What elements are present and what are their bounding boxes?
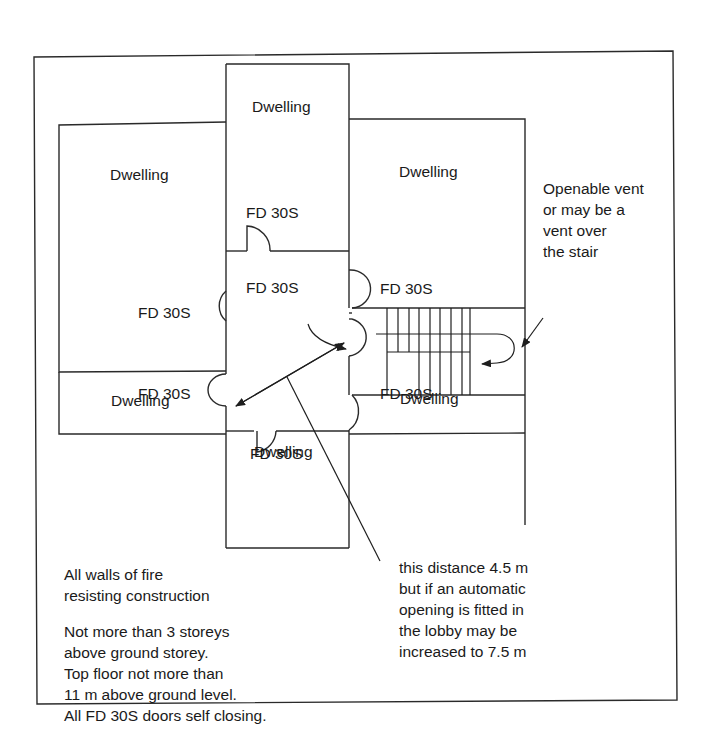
door-label-lobby: FD 30S: [246, 279, 299, 296]
walls-note: All walls of fire resisting construction: [64, 566, 210, 604]
svg-text:opening is fitted in: opening is fitted in: [399, 601, 524, 618]
door-left-lower: [208, 374, 226, 406]
svg-text:vent over: vent over: [543, 222, 607, 239]
svg-text:All FD 30S doors self closing.: All FD 30S doors self closing.: [64, 707, 266, 724]
svg-text:or may be a: or may be a: [543, 201, 625, 218]
door-stair-upper: [349, 270, 371, 308]
room-label-top-center: Dwelling: [252, 98, 311, 115]
limits-note: Not more than 3 storeys above ground sto…: [64, 623, 266, 724]
svg-text:the lobby may be: the lobby may be: [399, 622, 517, 639]
room-bottom-right: [349, 433, 525, 434]
figure-border: [34, 51, 677, 704]
svg-text:Top floor not more than: Top floor not more than: [64, 665, 223, 682]
door-stair-lower: [349, 395, 359, 430]
figure-frame: [34, 52, 668, 272]
svg-text:All walls of fire: All walls of fire: [64, 566, 163, 583]
room-label-top-right: Dwelling: [399, 163, 458, 180]
door-top-center: [247, 226, 270, 251]
stair-treads: [376, 308, 470, 395]
room-label-top-left: Dwelling: [110, 166, 169, 183]
svg-text:11 m above ground level.: 11 m above ground level.: [64, 686, 237, 703]
room-top-center: [226, 64, 349, 252]
svg-text:Not more than 3 storeys: Not more than 3 storeys: [64, 623, 230, 640]
room-top-left: [59, 122, 226, 372]
svg-text:the stair: the stair: [543, 243, 598, 260]
floor-plan-figure: Dwelling Dwelling Dwelling FD 30S FD 30S…: [0, 0, 707, 736]
svg-text:but if an automatic: but if an automatic: [399, 580, 526, 597]
door-label-left-upper: FD 30S: [138, 304, 191, 321]
svg-text:resisting construction: resisting construction: [64, 587, 210, 604]
room-label-bottom-right: Dwelling: [400, 390, 459, 407]
room-label-bottom-left: Dwelling: [111, 392, 170, 409]
door-left-upper: [219, 291, 226, 321]
distance-note: this distance 4.5 m but if an automatic …: [399, 559, 528, 660]
room-label-bottom-center: Dwelling: [254, 443, 313, 460]
door-label-stair-upper: FD 30S: [380, 280, 433, 297]
svg-text:increased to 7.5 m: increased to 7.5 m: [399, 643, 527, 660]
svg-text:above ground storey.: above ground storey.: [64, 644, 208, 661]
svg-text:Openable vent: Openable vent: [543, 180, 645, 197]
vent-note: Openable vent or may be a vent over the …: [543, 180, 645, 260]
stair-direction-arrow: [470, 334, 514, 364]
door-label-top-center: FD 30S: [246, 204, 299, 221]
distance-leader: [287, 377, 380, 561]
svg-text:this distance 4.5 m: this distance 4.5 m: [399, 559, 528, 576]
